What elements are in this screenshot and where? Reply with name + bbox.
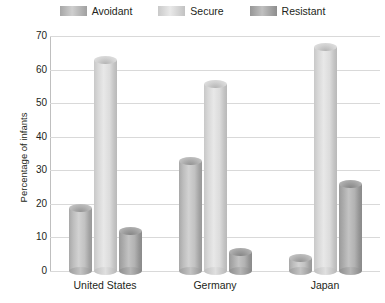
y-tick-label: 10 <box>19 232 47 242</box>
bar-body <box>339 184 362 271</box>
y-tick-label: 20 <box>19 199 47 209</box>
legend-swatch-secure <box>158 6 185 16</box>
y-tick-label: 0 <box>19 266 47 276</box>
bar-resistant-germany <box>229 248 252 272</box>
bar-top-ellipse <box>314 43 337 51</box>
attachment-styles-bar-chart: Avoidant Secure Resistant Percentage of … <box>0 0 385 303</box>
bar-base-ellipse <box>179 267 202 275</box>
bar-secure-germany <box>204 80 227 271</box>
y-tick-label: 30 <box>19 165 47 175</box>
bar-top-ellipse <box>229 248 252 256</box>
x-tick-label: United States <box>50 279 160 291</box>
y-tick-label: 40 <box>19 132 47 142</box>
y-tick-label: 70 <box>19 31 47 41</box>
plot-area <box>50 36 380 272</box>
y-tick-label: 60 <box>19 65 47 75</box>
bar-avoidant-japan <box>289 254 312 271</box>
bar-base-ellipse <box>119 267 142 275</box>
legend-swatch-resistant <box>250 6 277 16</box>
bar-body <box>204 84 227 271</box>
bar-base-ellipse <box>94 267 117 275</box>
bar-avoidant-germany <box>179 157 202 271</box>
chart-legend: Avoidant Secure Resistant <box>0 2 385 20</box>
legend-label-resistant: Resistant <box>282 6 326 17</box>
legend-item-secure: Secure <box>158 6 223 17</box>
bar-resistant-japan <box>339 180 362 271</box>
bar-body <box>119 231 142 271</box>
bar-resistant-united-states <box>119 227 142 271</box>
bar-top-ellipse <box>204 80 227 88</box>
bar-avoidant-united-states <box>69 204 92 271</box>
bar-base-ellipse <box>204 267 227 275</box>
bar-secure-united-states <box>94 56 117 271</box>
bar-body <box>179 161 202 271</box>
bar-base-ellipse <box>229 267 252 275</box>
gridline <box>50 36 380 37</box>
legend-label-avoidant: Avoidant <box>92 6 133 17</box>
bar-secure-japan <box>314 43 337 271</box>
legend-item-avoidant: Avoidant <box>60 6 133 17</box>
bar-base-ellipse <box>69 267 92 275</box>
legend-item-resistant: Resistant <box>250 6 326 17</box>
bar-top-ellipse <box>69 204 92 212</box>
bar-base-ellipse <box>314 267 337 275</box>
bar-body <box>94 60 117 271</box>
y-tick-label: 50 <box>19 98 47 108</box>
bar-top-ellipse <box>94 56 117 64</box>
legend-label-secure: Secure <box>190 6 223 17</box>
bar-body <box>314 47 337 271</box>
x-tick-label: Japan <box>270 279 380 291</box>
bar-top-ellipse <box>179 157 202 165</box>
bar-base-ellipse <box>339 267 362 275</box>
legend-swatch-avoidant <box>60 6 87 16</box>
bar-base-ellipse <box>289 267 312 275</box>
x-tick-label: Germany <box>160 279 270 291</box>
bar-body <box>69 208 92 271</box>
